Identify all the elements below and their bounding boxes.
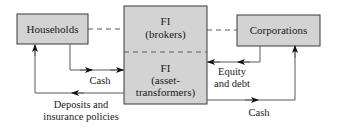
deposits-label-line1: Deposits and bbox=[54, 99, 109, 110]
households-cash-label: Cash bbox=[90, 75, 112, 86]
edge-corporations-to-fi-claims: Equity and debt bbox=[207, 46, 260, 89]
fi-asset-transformers-line3: transformers) bbox=[136, 86, 196, 99]
corporations-cash-label: Cash bbox=[249, 107, 271, 118]
financial-flow-diagram: Households FI (brokers) FI (asset- trans… bbox=[0, 0, 338, 129]
fi-node: FI (brokers) FI (asset- transformers) bbox=[124, 6, 207, 104]
fi-asset-transformers-line1: FI bbox=[161, 62, 171, 74]
deposits-label-line2: insurance policies bbox=[43, 111, 119, 122]
corporations-node: Corporations bbox=[237, 15, 320, 46]
fi-brokers-line1: FI bbox=[161, 15, 171, 27]
households-label: Households bbox=[27, 23, 79, 35]
edge-households-to-fi-cash: Cash bbox=[70, 44, 124, 86]
equity-label-line2: and debt bbox=[214, 78, 250, 89]
households-node: Households bbox=[17, 14, 88, 44]
equity-label-line1: Equity bbox=[218, 66, 247, 77]
edge-fi-to-households-deposits: Deposits and insurance policies bbox=[35, 45, 124, 122]
fi-brokers-line2: (brokers) bbox=[145, 28, 186, 41]
corporations-label: Corporations bbox=[250, 24, 307, 36]
